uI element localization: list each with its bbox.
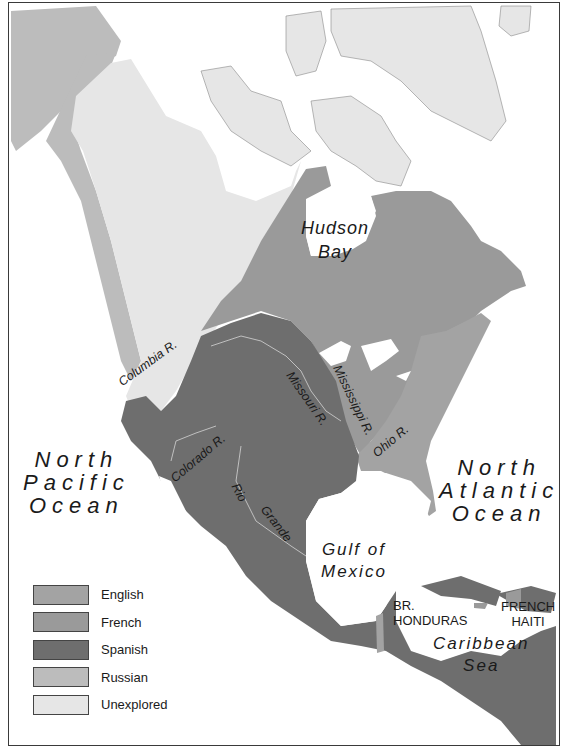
legend-swatch-unexplored — [33, 695, 89, 715]
arctic-island-ne — [499, 6, 531, 36]
french-haiti-label: FRENCH HAITI — [501, 599, 555, 629]
br-honduras-label: BR. HONDURAS — [393, 598, 467, 628]
map-legend: English French Spanish Russian Unexplore… — [33, 581, 168, 719]
legend-item-russian: Russian — [33, 664, 168, 692]
legend-swatch-spanish — [33, 640, 89, 660]
arctic-islands — [201, 66, 311, 166]
legend-item-french: French — [33, 609, 168, 637]
jamaica — [474, 603, 488, 609]
legend-item-unexplored: Unexplored — [33, 691, 168, 719]
legend-item-english: English — [33, 581, 168, 609]
legend-swatch-russian — [33, 667, 89, 687]
north-atlantic-label: North Atlantic Ocean — [439, 456, 559, 525]
north-pacific-label: North Pacific Ocean — [23, 448, 130, 517]
hudson-bay-label: Hudson Bay — [301, 216, 369, 264]
legend-swatch-french — [33, 612, 89, 632]
legend-swatch-english — [33, 585, 89, 605]
legend-item-spanish: Spanish — [33, 636, 168, 664]
br-honduras-patch — [376, 613, 384, 653]
map-frame: Hudson Bay North Pacific Ocean North Atl… — [8, 2, 560, 746]
caribbean-sea-label: Caribbean Sea — [433, 633, 529, 677]
ellesmere — [286, 11, 326, 76]
gulf-of-mexico-label: Gulf of Mexico — [321, 539, 387, 583]
